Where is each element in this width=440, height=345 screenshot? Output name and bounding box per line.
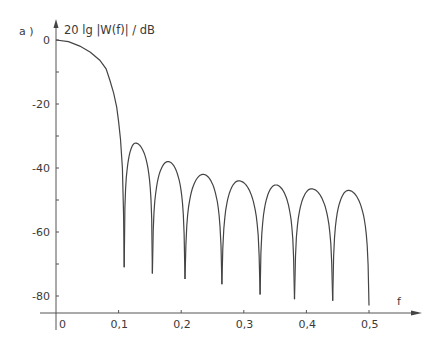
- side-lobe-curve: [185, 174, 222, 284]
- y-ticks: 0-20-40-60-80: [32, 34, 59, 303]
- curve-group: [56, 40, 369, 306]
- panel-label: a ): [19, 25, 34, 38]
- y-axis-label: 20 lg |W(f)| / dB: [64, 23, 155, 37]
- x-tick-label: 0,4: [298, 318, 316, 331]
- x-tick-label: 0,5: [361, 318, 379, 331]
- y-axis-arrow-icon: [54, 19, 59, 28]
- main-lobe-curve: [56, 40, 124, 267]
- side-lobe-curve: [260, 185, 294, 299]
- side-lobe-curve: [333, 190, 369, 305]
- x-tick-label: 0,2: [173, 318, 191, 331]
- y-tick-label: -60: [32, 226, 50, 239]
- x-tick-label: 0,1: [111, 318, 129, 331]
- x-axis-label: f: [397, 295, 402, 308]
- side-lobe-curve: [152, 162, 185, 279]
- y-tick-label: -40: [32, 162, 50, 175]
- y-tick-label: -80: [32, 290, 50, 303]
- x-axis-arrow-icon: [411, 311, 422, 316]
- side-lobe-curve: [295, 189, 333, 301]
- y-tick-label: 0: [43, 34, 50, 47]
- side-lobe-curve: [222, 181, 260, 295]
- x-tick-label: 0,3: [236, 318, 254, 331]
- side-lobe-curve: [124, 143, 152, 274]
- y-tick-label: -20: [32, 98, 50, 111]
- x-tick-label: 0: [59, 318, 66, 331]
- chart-canvas: a ) 20 lg |W(f)| / dB f 00,10,20,30,40,5…: [0, 0, 440, 345]
